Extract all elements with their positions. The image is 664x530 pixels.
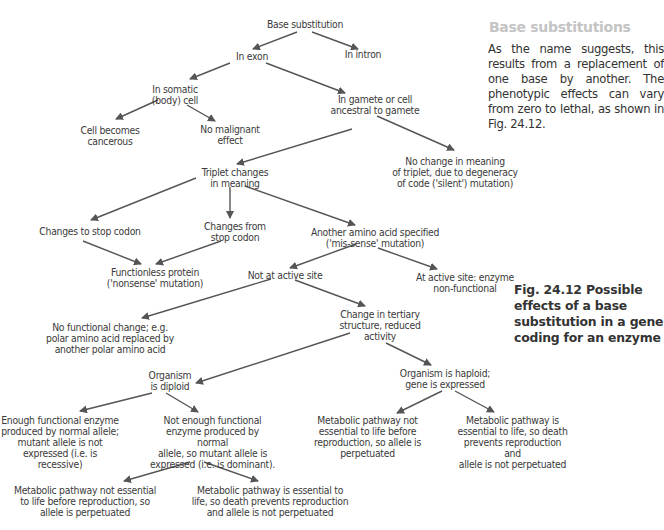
arrow-tertiary-to-diploid <box>196 333 350 383</box>
node-base-substitution: Base substitution <box>250 19 360 30</box>
arrow-haploid-to-notessential <box>397 391 442 413</box>
arrow-somatic-to-nomalignant <box>187 105 215 121</box>
node-in-exon: In exon <box>222 51 282 62</box>
node-no-malignant: No malignant effect <box>190 124 270 146</box>
arrow-exon-to-somatic <box>190 63 230 79</box>
node-in-gamete: In gamete or cell ancestral to gamete <box>315 94 435 116</box>
section-heading: Base substitutions <box>489 19 631 35</box>
node-changes-from-stop: Changes from stop codon <box>195 221 275 243</box>
arrow-tostop-to-functionless <box>83 241 141 264</box>
arrow-haploid-to-essential <box>455 391 494 412</box>
node-in-intron: In intron <box>333 49 393 60</box>
arrow-tertiary-to-haploid <box>386 343 431 365</box>
arrow-fromstop-to-functionless <box>156 241 221 264</box>
node-haploid: Organism is haploid; gene is expressed <box>390 368 500 390</box>
node-triplet-changes: Triplet changes in meaning <box>190 167 280 189</box>
arrow-base-to-exon <box>253 32 297 49</box>
node-enough-enzyme: Enough functional enzyme produced by nor… <box>0 415 120 470</box>
arrow-base-to-intron <box>312 32 358 49</box>
node-not-enough-enzyme: Not enough functional enzyme produced by… <box>150 415 275 470</box>
node-not-active-site: Not at active site <box>235 270 335 281</box>
node-haploid-not-essential: Metabolic pathway not essential to life … <box>310 415 425 459</box>
arrow-notactive-to-tertiary <box>295 280 365 306</box>
node-no-functional-change: No functional change; e.g. polar amino a… <box>40 322 180 355</box>
node-haploid-essential: Metabolic pathway is essential to life, … <box>455 415 570 470</box>
node-no-change-meaning: No change in meaning of triplet, due to … <box>375 156 535 189</box>
arrow-diploid-to-enough <box>80 393 152 411</box>
arrow-diploid-to-notenough <box>166 393 198 412</box>
node-diploid-not-essential: Metabolic pathway not essential to life … <box>10 485 160 518</box>
node-in-somatic: In somatic (body) cell <box>140 84 210 106</box>
node-diploid-essential: Metabolic pathway is essential to life, … <box>190 485 350 518</box>
arrow-triplet-to-tostop <box>91 178 196 220</box>
node-cell-cancerous: Cell becomes cancerous <box>70 125 150 147</box>
arrow-exon-to-gamete <box>266 63 345 93</box>
arrow-another-to-atactive <box>378 248 437 269</box>
section-body: As the name suggests, this results from … <box>488 42 664 132</box>
figure-caption: Fig. 24.12 Possible effects of a base su… <box>514 282 664 346</box>
node-another-amino: Another amino acid specified ('mis-sense… <box>300 227 450 249</box>
node-functionless: Functionless protein ('nonsense' mutatio… <box>95 267 215 289</box>
arrow-gamete-to-nochange <box>377 116 454 150</box>
node-tertiary-change: Change in tertiary structure, reduced ac… <box>330 309 430 342</box>
node-at-active-site: At active site: enzyme non-functional <box>405 272 525 294</box>
node-diploid: Organism is diploid <box>140 370 200 392</box>
node-changes-to-stop: Changes to stop codon <box>30 226 150 237</box>
